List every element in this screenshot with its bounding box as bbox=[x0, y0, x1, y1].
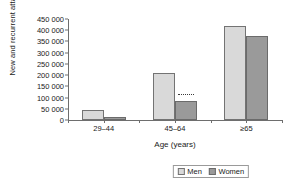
y-tick-mark bbox=[65, 19, 68, 20]
chart-legend: Men Women bbox=[173, 165, 249, 178]
x-tick-mark bbox=[246, 120, 247, 123]
legend-label-women: Women bbox=[218, 167, 244, 176]
legend-item-women: Women bbox=[209, 167, 244, 176]
y-axis-line bbox=[68, 19, 69, 120]
bar-women bbox=[246, 36, 268, 120]
bar-women bbox=[175, 101, 197, 120]
bar-group bbox=[224, 19, 268, 120]
y-tick-label: 250 000 bbox=[37, 59, 68, 68]
x-tick-mark bbox=[104, 120, 105, 123]
bar-chart: New and recurrent attacks 050 000100 000… bbox=[0, 0, 300, 190]
y-tick-label: 200 000 bbox=[37, 71, 68, 80]
x-boundary-tick bbox=[282, 120, 283, 123]
y-tick-label: 300 000 bbox=[37, 48, 68, 57]
dotted-marker bbox=[178, 94, 194, 95]
bar-men bbox=[153, 73, 175, 120]
x-tick-label: 45–64 bbox=[165, 124, 186, 133]
y-tick-label: 400 000 bbox=[37, 26, 68, 35]
bar-men bbox=[224, 26, 246, 120]
y-axis-title: New and recurrent attacks bbox=[8, 0, 17, 91]
y-tick-mark bbox=[65, 97, 68, 98]
y-tick-label: 150 000 bbox=[37, 82, 68, 91]
y-tick-mark bbox=[65, 86, 68, 87]
y-tick-mark bbox=[65, 108, 68, 109]
y-tick-label: 350 000 bbox=[37, 37, 68, 46]
y-tick-label: 450 000 bbox=[37, 15, 68, 24]
x-boundary-tick bbox=[139, 120, 140, 123]
y-tick-mark bbox=[65, 75, 68, 76]
bar-group bbox=[153, 19, 197, 120]
x-tick-label: 29–44 bbox=[93, 124, 114, 133]
legend-swatch-women bbox=[209, 168, 216, 175]
bar-group bbox=[82, 19, 126, 120]
x-boundary-tick bbox=[68, 120, 69, 123]
bar-women bbox=[104, 117, 126, 120]
y-tick-mark bbox=[65, 30, 68, 31]
x-tick-label: ≥65 bbox=[240, 124, 252, 133]
y-tick-mark bbox=[65, 41, 68, 42]
y-tick-mark bbox=[65, 52, 68, 53]
legend-item-men: Men bbox=[178, 167, 202, 176]
bar-men bbox=[82, 110, 104, 120]
legend-label-men: Men bbox=[187, 167, 202, 176]
y-tick-mark bbox=[65, 63, 68, 64]
plot-area: 050 000100 000150 000200 000250 000300 0… bbox=[68, 19, 282, 120]
x-axis-title: Age (years) bbox=[68, 140, 282, 149]
x-boundary-tick bbox=[211, 120, 212, 123]
x-tick-mark bbox=[175, 120, 176, 123]
y-tick-label: 50 000 bbox=[41, 104, 68, 113]
legend-swatch-men bbox=[178, 168, 185, 175]
y-tick-label: 100 000 bbox=[37, 93, 68, 102]
